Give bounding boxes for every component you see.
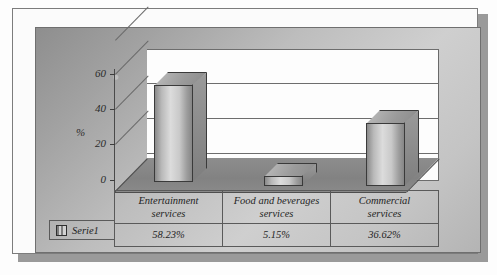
y-tick-label-20: 20	[80, 137, 106, 149]
gridline-top	[147, 49, 439, 50]
bar-side-face	[404, 110, 419, 186]
y-tick-label-60: 60	[80, 67, 106, 79]
y-tick-label-0: 0	[80, 173, 106, 185]
table-header-cell-entertainment: Entertainment services	[115, 191, 223, 224]
bar-side-face	[192, 72, 207, 182]
tick-mark-20	[110, 144, 115, 145]
table-value-entertainment: 58.23%	[115, 224, 223, 247]
header-line-1: Commercial	[359, 195, 411, 206]
scanned-page: 60 40 20 0 %	[0, 0, 497, 275]
tick-mark-0	[110, 180, 115, 181]
bar-entertainment-services	[154, 72, 207, 182]
depth-line-top	[115, 6, 149, 40]
tick-mark-40	[110, 109, 115, 110]
depth-line-60	[115, 40, 149, 74]
table-value-food-and-beverages: 5.15%	[223, 224, 331, 247]
y-tick-label-40: 40	[80, 102, 106, 114]
bar-commercial-services	[366, 110, 419, 186]
table-header-row: Entertainment services Food and beverage…	[115, 191, 439, 224]
bar-front-face	[366, 123, 405, 186]
bar-front-face	[154, 85, 193, 182]
header-line-1: Food and beverages	[234, 195, 320, 206]
bar-front-face	[264, 176, 303, 186]
table-value-row: 58.23% 5.15% 36.62%	[115, 224, 439, 247]
chart-data-table: Entertainment services Food and beverage…	[114, 190, 439, 247]
table-value-commercial: 36.62%	[331, 224, 439, 247]
table-header-cell-commercial: Commercial services	[331, 191, 439, 224]
tick-mark-60	[110, 74, 115, 75]
bar-food-and-beverages-services	[264, 163, 317, 186]
series-swatch-icon	[56, 225, 67, 236]
header-line-2: services	[260, 208, 294, 219]
header-line-1: Entertainment	[138, 195, 198, 206]
legend-series-cell: Serie1	[49, 220, 115, 240]
y-axis-title: %	[76, 126, 85, 138]
chart-panel: 60 40 20 0 %	[35, 27, 481, 253]
figure-outer-frame: 60 40 20 0 %	[12, 8, 478, 254]
header-line-2: services	[152, 208, 186, 219]
depth-line-20	[115, 110, 149, 144]
depth-line-40	[115, 75, 149, 109]
header-line-2: services	[368, 208, 402, 219]
legend-series-label: Serie1	[72, 225, 99, 236]
y-axis-line	[114, 69, 115, 191]
table-header-cell-food-and-beverages: Food and beverages services	[223, 191, 331, 224]
